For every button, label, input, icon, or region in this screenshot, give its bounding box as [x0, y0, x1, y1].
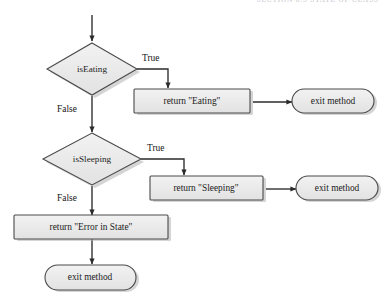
node-label-exit-method-sleeping: exit method — [315, 183, 360, 193]
node-label-return-error: return "Error in State" — [50, 222, 133, 232]
node-label-return-eating: return "Eating" — [164, 96, 221, 106]
node-is-sleeping[interactable]: isSleeping — [43, 133, 141, 185]
node-label-exit-method-eating: exit method — [311, 96, 356, 106]
edge-label-sleeping-false: False — [57, 193, 77, 203]
node-exit-method-sleeping[interactable]: exit method — [296, 176, 378, 200]
node-return-error[interactable]: return "Error in State" — [14, 215, 168, 239]
edge-label-eating-false: False — [57, 104, 77, 114]
connector-eating-true — [137, 69, 168, 88]
node-return-eating[interactable]: return "Eating" — [134, 89, 250, 113]
node-return-sleeping[interactable]: return "Sleeping" — [150, 176, 263, 200]
node-exit-method-error[interactable]: exit method — [45, 265, 136, 290]
node-label-return-sleeping: return "Sleeping" — [173, 183, 238, 193]
node-exit-method-eating[interactable]: exit method — [292, 89, 374, 113]
connector-sleeping-true — [141, 159, 184, 175]
flowchart-canvas: isEating return "Eating" exit method isS… — [0, 0, 385, 302]
node-label-is-eating: isEating — [77, 64, 108, 74]
flowchart-figure: SECTION 8.5 STATE OF CLASS — [0, 0, 385, 302]
edge-label-eating-true: True — [142, 53, 159, 63]
node-label-exit-method-error: exit method — [68, 272, 113, 282]
node-is-eating[interactable]: isEating — [47, 43, 137, 95]
node-label-is-sleeping: isSleeping — [73, 154, 112, 164]
edge-label-sleeping-true: True — [147, 143, 164, 153]
